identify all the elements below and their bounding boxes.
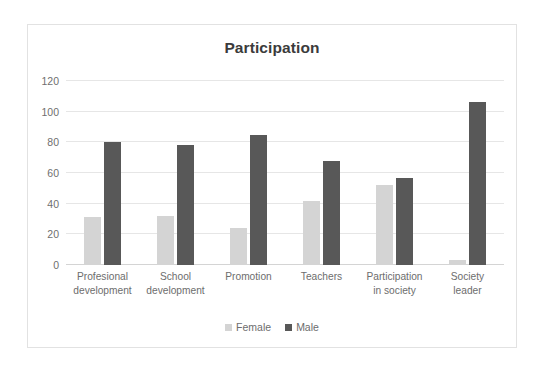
bar-female[interactable]	[157, 216, 174, 265]
y-axis-tick-0: 0	[53, 259, 59, 271]
legend-label: Female	[236, 321, 271, 333]
x-axis-label-line: in society	[359, 284, 430, 298]
y-axis-tick-120: 120	[41, 75, 59, 87]
bar-male[interactable]	[469, 102, 486, 265]
bar-group	[66, 81, 139, 265]
x-axis-label-line: development	[67, 284, 138, 298]
bar-group	[285, 81, 358, 265]
legend-label: Male	[296, 321, 319, 333]
bar-female[interactable]	[230, 228, 247, 265]
x-axis-label-line: Promotion	[213, 270, 284, 284]
bar-female[interactable]	[376, 185, 393, 265]
y-axis-tick-80: 80	[47, 136, 59, 148]
y-axis-tick-60: 60	[47, 167, 59, 179]
legend-item-male[interactable]: Male	[285, 321, 319, 333]
chart-title: Participation	[28, 39, 516, 57]
x-axis-label-line: leader	[432, 284, 503, 298]
bar-female[interactable]	[84, 217, 101, 265]
bars-layer	[66, 81, 504, 265]
x-axis-label-line: Teachers	[286, 270, 357, 284]
bar-male[interactable]	[396, 178, 413, 265]
bar-female[interactable]	[303, 201, 320, 265]
bar-female[interactable]	[449, 260, 466, 265]
bar-male[interactable]	[177, 145, 194, 265]
bar-group	[139, 81, 212, 265]
legend-swatch-icon	[225, 324, 232, 331]
y-axis-tick-20: 20	[47, 228, 59, 240]
bar-male[interactable]	[323, 161, 340, 265]
chart-container: Participation 020406080100120 Profesiona…	[27, 24, 517, 348]
x-axis-label: Promotion	[212, 270, 285, 298]
y-axis-tick-100: 100	[41, 106, 59, 118]
legend-item-female[interactable]: Female	[225, 321, 271, 333]
x-axis-label-line: Profesional	[67, 270, 138, 284]
x-axis-category-labels: ProfesionaldevelopmentSchooldevelopmentP…	[66, 270, 504, 298]
x-axis-label: Teachers	[285, 270, 358, 298]
x-axis-label: Profesionaldevelopment	[66, 270, 139, 298]
x-axis-label-line: Society	[432, 270, 503, 284]
x-axis-label: Societyleader	[431, 270, 504, 298]
x-axis-label-line: Participation	[359, 270, 430, 284]
x-axis-label-line: School	[140, 270, 211, 284]
x-axis-label: Schooldevelopment	[139, 270, 212, 298]
bar-group	[358, 81, 431, 265]
plot-area: 020406080100120	[66, 81, 504, 265]
legend-swatch-icon	[285, 324, 292, 331]
x-axis-label-line: development	[140, 284, 211, 298]
bar-male[interactable]	[104, 142, 121, 265]
bar-male[interactable]	[250, 135, 267, 265]
y-axis-tick-40: 40	[47, 198, 59, 210]
bar-group	[212, 81, 285, 265]
chart-legend: FemaleMale	[28, 321, 516, 333]
x-axis-label: Participationin society	[358, 270, 431, 298]
bar-group	[431, 81, 504, 265]
